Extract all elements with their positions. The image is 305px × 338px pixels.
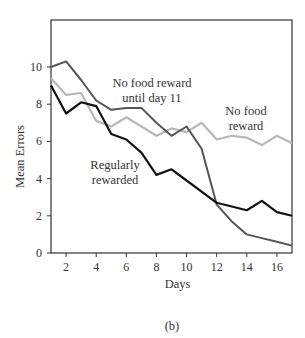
series-annotation: No food reward bbox=[112, 76, 192, 90]
series-annotation: rewarded bbox=[92, 173, 139, 187]
x-tick-label: 10 bbox=[181, 260, 193, 274]
y-tick-label: 4 bbox=[36, 172, 42, 186]
figure-caption: (b) bbox=[165, 319, 180, 333]
x-tick-label: 14 bbox=[241, 260, 253, 274]
series-annotation: No food bbox=[225, 104, 267, 118]
series-annotation: Regularly bbox=[90, 158, 140, 172]
y-tick-label: 10 bbox=[30, 60, 42, 74]
y-tick-label: 8 bbox=[36, 97, 42, 111]
y-tick-label: 0 bbox=[36, 246, 42, 260]
x-tick-label: 16 bbox=[271, 260, 283, 274]
y-tick-label: 6 bbox=[36, 134, 42, 148]
chart: 0246810246810121416DaysMean ErrorsNo foo… bbox=[0, 0, 305, 338]
x-tick-label: 6 bbox=[123, 260, 129, 274]
y-tick-label: 2 bbox=[36, 209, 42, 223]
x-tick-label: 12 bbox=[211, 260, 223, 274]
x-tick-label: 8 bbox=[153, 260, 159, 274]
x-tick-label: 2 bbox=[63, 260, 69, 274]
y-axis-label: Mean Errors bbox=[13, 125, 27, 188]
series-annotation: until day 11 bbox=[122, 91, 181, 105]
x-axis-label: Days bbox=[165, 277, 191, 291]
series-annotation: reward bbox=[229, 119, 264, 133]
x-tick-label: 4 bbox=[93, 260, 99, 274]
